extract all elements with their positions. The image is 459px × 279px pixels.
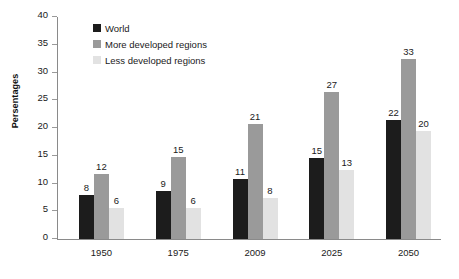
bar-1950-series-1: 12 bbox=[94, 174, 109, 239]
y-tick-20: 20 bbox=[52, 127, 57, 128]
bar-value-label: 15 bbox=[312, 145, 323, 156]
bar-value-label: 8 bbox=[84, 182, 89, 193]
y-tick-label-30: 30 bbox=[37, 65, 48, 76]
legend-swatch-less-developed bbox=[93, 56, 101, 64]
bar-value-label: 27 bbox=[327, 79, 338, 90]
bar-group-2009: 11218 bbox=[233, 17, 278, 239]
y-tick-40: 40 bbox=[52, 16, 57, 17]
y-tick-5: 5 bbox=[52, 210, 57, 211]
bar-chart: Persentages 4035302520151050 81269156112… bbox=[0, 0, 459, 279]
x-axis-label-1950: 1950 bbox=[69, 247, 134, 258]
legend-item-less-developed: Less developed regions bbox=[93, 52, 207, 68]
bar-value-label: 6 bbox=[191, 195, 196, 206]
bar-value-label: 33 bbox=[403, 46, 414, 57]
bar-1950-series-2: 6 bbox=[109, 208, 124, 239]
y-tick-label-40: 40 bbox=[37, 9, 48, 20]
bar-value-label: 11 bbox=[235, 166, 245, 177]
bar-value-label: 21 bbox=[250, 111, 261, 122]
legend-item-world: World bbox=[93, 20, 207, 36]
bar-2009-series-0: 11 bbox=[233, 179, 248, 239]
bar-group-2025: 152713 bbox=[309, 17, 354, 239]
y-tick-15: 15 bbox=[52, 155, 57, 156]
bar-2050-series-1: 33 bbox=[401, 59, 416, 239]
x-axis-label-1975: 1975 bbox=[146, 247, 211, 258]
x-axis-line bbox=[57, 239, 441, 240]
y-tick-label-15: 15 bbox=[37, 148, 48, 159]
bar-value-label: 8 bbox=[267, 185, 272, 196]
bar-1950-series-0: 8 bbox=[79, 195, 94, 239]
y-tick-10: 10 bbox=[52, 183, 57, 184]
x-axis-label-2009: 2009 bbox=[223, 247, 288, 258]
bar-value-label: 9 bbox=[161, 178, 166, 189]
legend-label-more-developed: More developed regions bbox=[105, 39, 207, 50]
y-tick-35: 35 bbox=[52, 44, 57, 45]
bar-1975-series-2: 6 bbox=[186, 208, 201, 239]
legend-item-more-developed: More developed regions bbox=[93, 36, 207, 52]
y-axis-title: Persentages bbox=[10, 36, 20, 166]
y-tick-label-35: 35 bbox=[37, 37, 48, 48]
y-axis-line bbox=[57, 17, 58, 240]
y-tick-label-10: 10 bbox=[37, 176, 48, 187]
bar-2025-series-0: 15 bbox=[309, 158, 324, 239]
y-tick-label-5: 5 bbox=[43, 203, 48, 214]
bar-value-label: 6 bbox=[114, 195, 119, 206]
bar-value-label: 22 bbox=[388, 107, 399, 118]
y-tick-label-0: 0 bbox=[43, 231, 48, 242]
legend-label-less-developed: Less developed regions bbox=[105, 55, 205, 66]
y-tick-label-25: 25 bbox=[37, 92, 48, 103]
y-tick-label-20: 20 bbox=[37, 120, 48, 131]
bar-value-label: 12 bbox=[96, 161, 107, 172]
legend-swatch-world bbox=[93, 24, 101, 32]
bar-2025-series-2: 13 bbox=[339, 170, 354, 239]
bar-group-2050: 223320 bbox=[386, 17, 431, 239]
bar-2050-series-0: 22 bbox=[386, 120, 401, 239]
bar-2025-series-1: 27 bbox=[324, 92, 339, 239]
bar-1975-series-1: 15 bbox=[171, 157, 186, 239]
bar-value-label: 20 bbox=[418, 118, 429, 129]
legend-label-world: World bbox=[105, 23, 130, 34]
x-axis-label-2050: 2050 bbox=[376, 247, 441, 258]
y-tick-30: 30 bbox=[52, 72, 57, 73]
y-tick-0: 0 bbox=[52, 238, 57, 239]
x-axis-label-2025: 2025 bbox=[299, 247, 364, 258]
bar-value-label: 15 bbox=[173, 144, 184, 155]
bar-2009-series-1: 21 bbox=[248, 124, 263, 239]
bar-2009-series-2: 8 bbox=[263, 198, 278, 239]
legend-swatch-more-developed bbox=[93, 40, 101, 48]
bar-2050-series-2: 20 bbox=[416, 131, 431, 239]
y-tick-25: 25 bbox=[52, 99, 57, 100]
bar-1975-series-0: 9 bbox=[156, 191, 171, 239]
bar-value-label: 13 bbox=[342, 157, 353, 168]
legend: World More developed regions Less develo… bbox=[93, 20, 207, 68]
